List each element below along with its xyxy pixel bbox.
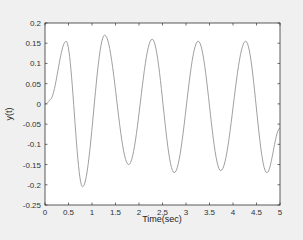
y-tick-label: 0 [37,100,42,109]
figure: 00.511.522.533.544.55 -0.25-0.2-0.15-0.1… [0,0,303,240]
x-tick-label: 2 [137,208,142,217]
y-tick-label: 0.2 [30,19,42,28]
x-tick-label: 3.5 [204,208,216,217]
y-tick-label: -0.2 [27,181,41,190]
line-chart: 00.511.522.533.544.55 -0.25-0.2-0.15-0.1… [0,0,303,240]
y-tick-label: -0.15 [23,161,42,170]
x-tick-label: 3 [184,208,189,217]
x-axis-label: Time(sec) [142,214,182,224]
x-tick-label: 0.5 [63,208,75,217]
y-tick-label: 0.05 [25,80,41,89]
y-tick-label: -0.25 [23,201,42,210]
x-tick-label: 1.5 [110,208,122,217]
y-axis-label: y(t) [4,108,14,121]
x-tick-label: 4.5 [251,208,263,217]
y-tick-label: -0.1 [27,140,41,149]
y-tick-label: 0.1 [30,59,42,68]
x-tick-label: 4 [231,208,236,217]
y-tick-label: -0.05 [23,120,42,129]
x-tick-label: 1 [90,208,95,217]
x-tick-label: 0 [43,208,48,217]
x-tick-label: 5 [278,208,283,217]
y-tick-label: 0.15 [25,39,41,48]
